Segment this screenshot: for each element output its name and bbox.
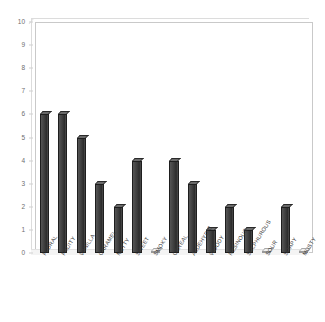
bar-slot [206, 22, 215, 253]
bar-top-face [58, 111, 70, 114]
bar-slot [244, 22, 253, 253]
bar-top-face [114, 204, 126, 207]
y-axis-tick-mark [29, 68, 33, 69]
y-axis-tick-label: 8 [21, 65, 25, 72]
y-axis: 109876543210 [0, 22, 33, 253]
bar-slot [169, 22, 178, 253]
bar-top-face [188, 181, 200, 184]
y-axis-tick-mark [29, 137, 33, 138]
bar-top-face [132, 158, 144, 161]
y-axis-tick-mark [29, 45, 33, 46]
bar-top-face [225, 204, 237, 207]
y-axis-tick-label: 4 [21, 157, 25, 164]
bar[interactable] [132, 161, 141, 253]
bar-slot [281, 22, 290, 253]
bar-front-face [132, 161, 141, 253]
bar-front-face [58, 114, 67, 253]
bar-top-face [169, 158, 181, 161]
bar-front-face [77, 138, 86, 254]
y-axis-tick-mark [29, 229, 33, 230]
bar-slot [132, 22, 141, 253]
y-axis-tick-label: 5 [21, 134, 25, 141]
bar-top-face [77, 135, 89, 138]
bar[interactable] [40, 114, 49, 253]
y-axis-tick-mark [29, 183, 33, 184]
y-axis-tick-label: 3 [21, 180, 25, 187]
y-axis-tick-label: 0 [21, 250, 25, 257]
y-axis-tick-mark [29, 253, 33, 254]
y-axis-tick-mark [29, 22, 33, 23]
bar[interactable] [77, 138, 86, 254]
x-axis: FLORALFRUITYVANILLACARAMELNUTTYSWEETSMOK… [35, 254, 313, 320]
bar-slot [95, 22, 104, 253]
y-axis-tick-mark [29, 160, 33, 161]
y-axis-tick-label: 6 [21, 111, 25, 118]
bar-slot [40, 22, 49, 253]
bar-slot [58, 22, 67, 253]
y-axis-tick-label: 2 [21, 204, 25, 211]
y-axis-tick-mark [29, 114, 33, 115]
bar-slot [77, 22, 86, 253]
y-axis-tick-label: 10 [18, 19, 25, 26]
bar-slot [225, 22, 234, 253]
y-axis-tick-mark [29, 91, 33, 92]
y-axis-tick-label: 1 [21, 227, 25, 234]
bar[interactable] [58, 114, 67, 253]
bar-top-face [40, 111, 52, 114]
bar-slot [188, 22, 197, 253]
bars-layer [35, 22, 313, 253]
bar-slot [114, 22, 123, 253]
y-axis-tick-label: 9 [21, 42, 25, 49]
y-axis-tick-label: 7 [21, 88, 25, 95]
bar-front-face [40, 114, 49, 253]
bar-top-face [281, 204, 293, 207]
plot-depth-top-edge [31, 18, 309, 19]
bar-slot [151, 22, 160, 253]
bar-top-face [95, 181, 107, 184]
bar-front-face [169, 161, 178, 253]
bar-slot [299, 22, 308, 253]
bar-chart-figure: 109876543210 FLORALFRUITYVANILLACARAMELN… [0, 0, 325, 322]
y-axis-tick-mark [29, 206, 33, 207]
bar[interactable] [169, 161, 178, 253]
